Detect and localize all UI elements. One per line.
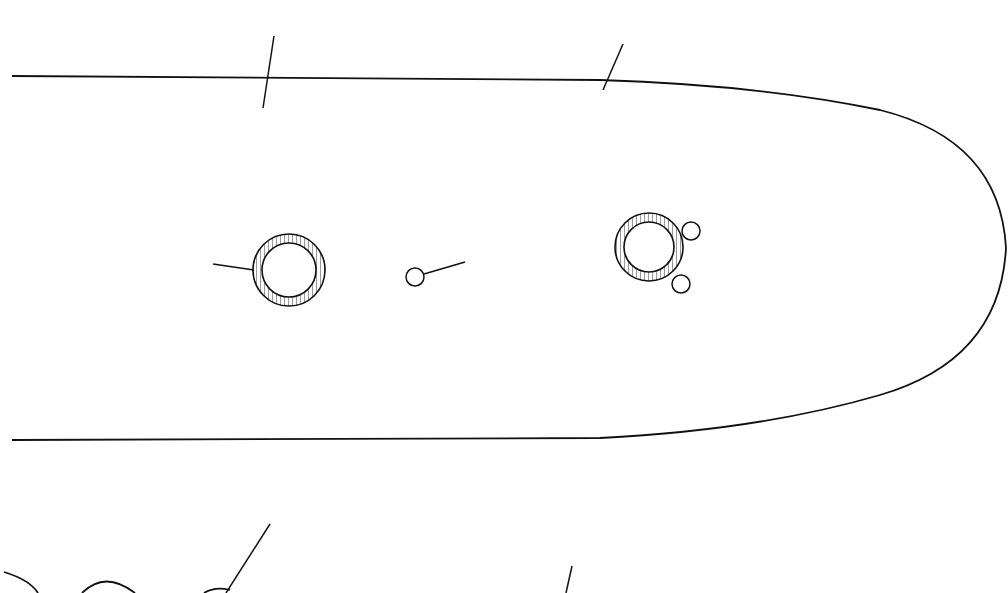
panel-a	[12, 36, 1006, 440]
panel-b-cuticle-leader	[226, 524, 270, 593]
trachea-right	[615, 213, 683, 281]
nerve-small-2	[672, 275, 690, 293]
nerve-leader	[424, 262, 465, 274]
cuticle-leader	[603, 44, 623, 90]
cuticle-outline	[12, 76, 1006, 440]
trachea-left	[253, 234, 325, 306]
trachea-leader	[213, 264, 254, 270]
panel-b-arc-1	[4, 572, 38, 593]
epidermis-leader	[263, 36, 274, 108]
nerve	[406, 268, 424, 286]
panel-b-arc-2	[82, 582, 135, 593]
insect-appendage-section-diagram	[0, 0, 1008, 593]
panel-b-epidermis-leader	[566, 566, 572, 593]
nerve-small-1	[682, 222, 700, 240]
panel-b	[4, 524, 572, 593]
